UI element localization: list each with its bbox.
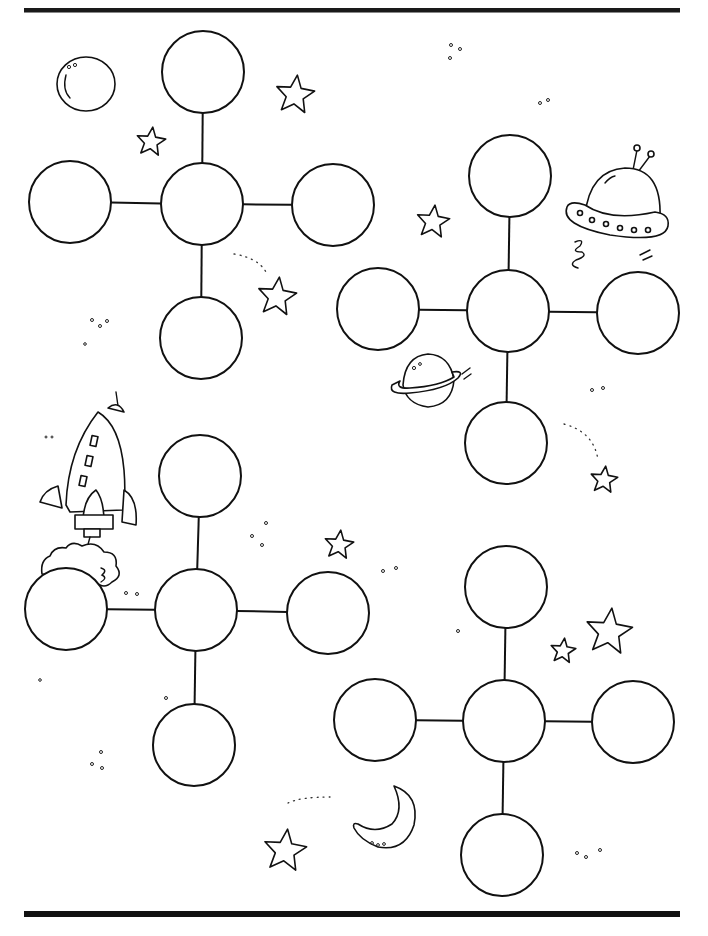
node-right[interactable]	[292, 164, 374, 246]
node-right[interactable]	[597, 272, 679, 354]
connector-right	[237, 611, 287, 612]
ringed-planet-icon	[391, 354, 471, 407]
node-right[interactable]	[287, 572, 369, 654]
center-node[interactable]	[463, 680, 545, 762]
rocket-icon	[40, 392, 136, 586]
connector-left	[419, 310, 467, 311]
planet-bubble-icon	[57, 57, 115, 111]
ufo-icon	[566, 145, 668, 268]
node-top[interactable]	[162, 31, 244, 113]
center-node[interactable]	[161, 163, 243, 245]
center-node[interactable]	[467, 270, 549, 352]
node-top[interactable]	[159, 435, 241, 517]
node-left[interactable]	[29, 161, 111, 243]
star-icon	[259, 277, 297, 314]
node-bottom[interactable]	[160, 297, 242, 379]
center-node[interactable]	[155, 569, 237, 651]
node-top[interactable]	[465, 546, 547, 628]
star-icon	[591, 466, 617, 492]
node-left[interactable]	[334, 679, 416, 761]
star-icon	[265, 829, 307, 870]
connector-top	[505, 628, 506, 680]
star-icon	[325, 530, 353, 558]
worksheet-page	[0, 0, 708, 936]
node-right[interactable]	[592, 681, 674, 763]
star-icon	[587, 608, 632, 653]
node-top[interactable]	[469, 135, 551, 217]
connector-top	[509, 217, 510, 270]
star-icon	[277, 75, 315, 112]
connector-top	[197, 517, 199, 569]
connector-right	[549, 312, 597, 313]
node-left[interactable]	[25, 568, 107, 650]
node-bottom[interactable]	[153, 704, 235, 786]
connector-bottom	[195, 651, 196, 704]
star-trail	[288, 797, 330, 803]
star-icon	[551, 638, 576, 662]
star-trail	[234, 254, 266, 272]
connector-left	[111, 203, 161, 204]
star-icon	[137, 127, 165, 155]
star-trail	[564, 424, 598, 460]
connector-bottom	[507, 352, 508, 402]
node-left[interactable]	[337, 268, 419, 350]
connector-bottom	[503, 762, 504, 814]
star-icon	[418, 205, 450, 237]
node-bottom[interactable]	[461, 814, 543, 896]
crescent-moon-icon	[354, 786, 416, 848]
node-bottom[interactable]	[465, 402, 547, 484]
worksheet-art	[0, 0, 708, 936]
